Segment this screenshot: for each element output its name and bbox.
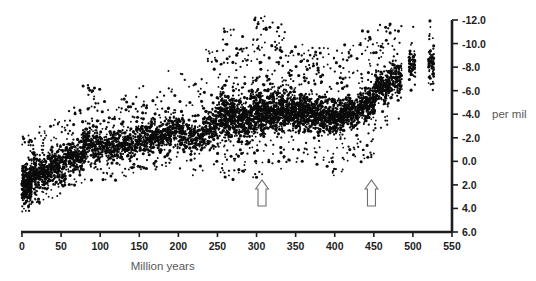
x-tick-label: 250: [209, 240, 227, 252]
data-cluster: [99, 100, 119, 182]
annotations-layer: [256, 180, 378, 206]
y-axis-unit-label: per mil: [492, 108, 527, 120]
x-tick-label: 200: [170, 240, 188, 252]
y-tick-label: -6.0: [462, 85, 480, 97]
data-cluster: [408, 26, 417, 92]
y-tick-label: -2.0: [462, 132, 480, 144]
data-cluster: [218, 28, 236, 181]
data-cluster: [233, 35, 251, 174]
data-cluster: [166, 70, 185, 169]
x-tick-label: 100: [91, 240, 109, 252]
data-cluster: [427, 19, 435, 91]
x-tick-label: 0: [19, 240, 25, 252]
data-cluster: [343, 43, 361, 161]
y-tick-label: -10.0: [462, 38, 486, 50]
data-cluster: [388, 22, 403, 119]
data-cluster: [116, 95, 137, 178]
data-cluster: [312, 47, 330, 168]
x-tick-label: 50: [55, 240, 67, 252]
x-tick-label: 550: [443, 240, 461, 252]
y-tick-label: -12.0: [462, 14, 486, 26]
data-cluster: [150, 91, 168, 171]
x-tick-label: 400: [326, 240, 344, 252]
data-cluster: [327, 49, 345, 176]
y-tick-label: 0.0: [462, 155, 477, 167]
chart-figure: 050100150200250300350400450500550-12.0-1…: [0, 0, 536, 281]
x-tick-label: 350: [287, 240, 305, 252]
y-tick-label: 4.0: [462, 202, 477, 214]
y-tick-label: -8.0: [462, 61, 480, 73]
data-cluster: [47, 119, 67, 199]
data-cluster: [374, 24, 391, 129]
data-cluster: [30, 126, 49, 205]
y-tick-label: 2.0: [462, 179, 477, 191]
y-tick-label: 6.0: [462, 226, 477, 238]
data-cluster: [82, 84, 102, 181]
arrow-marker-2: [365, 180, 378, 206]
x-tick-label: 450: [365, 240, 383, 252]
x-tick-label: 150: [131, 240, 149, 252]
data-cluster: [249, 15, 267, 178]
scatter-plot-svg: 050100150200250300350400450500550-12.0-1…: [0, 0, 536, 281]
y-tick-label: -4.0: [462, 108, 480, 120]
data-cluster: [184, 78, 205, 176]
data-cluster: [202, 49, 220, 166]
data-cluster: [135, 85, 153, 170]
x-tick-label: 500: [404, 240, 422, 252]
x-tick-label: 300: [248, 240, 266, 252]
data-cluster: [264, 21, 283, 169]
data-cluster: [280, 31, 299, 163]
data-cluster: [64, 107, 84, 187]
arrow-marker-1: [256, 180, 269, 206]
data-cluster: [359, 29, 377, 163]
x-axis-title: Million years: [131, 260, 195, 272]
data-cluster: [296, 44, 315, 163]
